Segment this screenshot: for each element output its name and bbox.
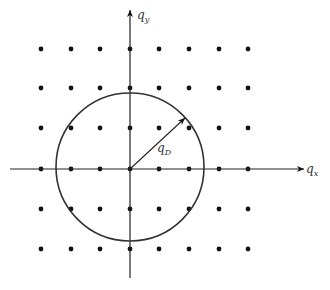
lattice-point — [69, 247, 74, 252]
lattice-point — [69, 47, 74, 52]
lattice-point — [157, 207, 162, 212]
lattice-point — [69, 86, 74, 91]
lattice-point — [246, 47, 251, 52]
x-axis-label: qx — [306, 162, 319, 178]
lattice-point — [98, 207, 103, 212]
lattice-point — [98, 47, 103, 52]
lattice-point — [217, 207, 222, 212]
lattice-point — [39, 47, 44, 52]
y-axis-label: qy — [137, 8, 150, 24]
lattice-point — [187, 247, 192, 252]
lattice-point — [187, 126, 192, 131]
lattice-point — [39, 247, 44, 252]
lattice-point — [246, 207, 251, 212]
lattice-diagram: qy qx qD — [0, 0, 330, 290]
lattice-point — [98, 247, 103, 252]
lattice-point — [246, 247, 251, 252]
lattice-point — [187, 86, 192, 91]
lattice-point — [246, 86, 251, 91]
diagram-svg: qy qx qD — [0, 0, 330, 290]
lattice-point — [157, 247, 162, 252]
lattice-point — [157, 86, 162, 91]
lattice-points — [39, 47, 251, 252]
lattice-point — [39, 207, 44, 212]
lattice-point — [157, 47, 162, 52]
lattice-point — [187, 47, 192, 52]
lattice-point — [157, 126, 162, 131]
lattice-point — [39, 126, 44, 131]
lattice-point — [217, 247, 222, 252]
lattice-point — [69, 126, 74, 131]
lattice-point — [98, 126, 103, 131]
lattice-point — [39, 86, 44, 91]
lattice-point — [246, 126, 251, 131]
lattice-point — [98, 86, 103, 91]
lattice-point — [217, 47, 222, 52]
radius-label: qD — [157, 141, 172, 157]
lattice-point — [217, 86, 222, 91]
lattice-point — [217, 126, 222, 131]
